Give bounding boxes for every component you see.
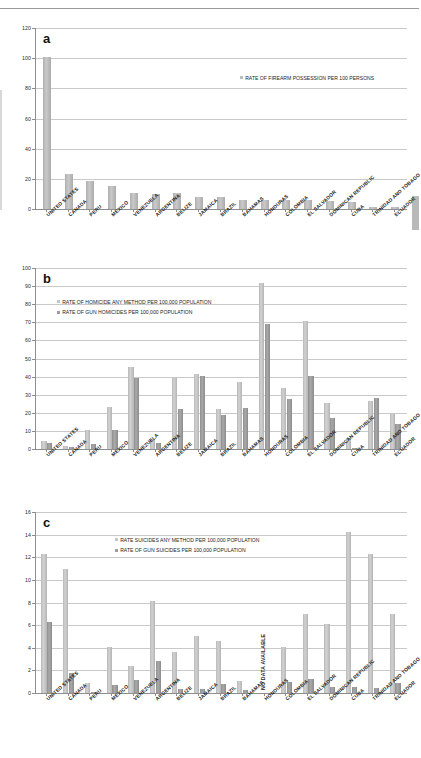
- bar-group: [36, 512, 58, 693]
- bar: [265, 324, 270, 449]
- bar-group: [188, 28, 210, 209]
- bar: [134, 378, 139, 449]
- y-axis-tick-label: 12: [25, 554, 31, 560]
- bar: [346, 532, 351, 693]
- bar-group: [384, 28, 406, 209]
- bar: [259, 283, 264, 449]
- bar: [368, 401, 373, 450]
- y-axis-tick-label: 0: [28, 690, 31, 696]
- bar: [108, 186, 116, 209]
- bar-group: [80, 28, 102, 209]
- y-axis-tick-label: 8: [28, 600, 31, 606]
- bar: [63, 446, 68, 449]
- plot-area-b: b 0102030405060708090100 RATE OF HOMICID…: [35, 268, 407, 450]
- bar-group: [319, 28, 341, 209]
- bar-group: [80, 512, 102, 693]
- bar-group: [254, 28, 276, 209]
- bar: [243, 408, 248, 449]
- y-axis-tick-label: 14: [25, 532, 31, 538]
- chart-panel-c: c 0246810121416 RATE SUICIDES ANY METHOD…: [0, 504, 419, 754]
- bar: [86, 181, 94, 209]
- bar-group: [58, 512, 80, 693]
- bar-group: [123, 512, 145, 693]
- y-axis-tick-label: 0: [28, 206, 31, 212]
- bar: [107, 407, 112, 449]
- bar: [237, 382, 242, 449]
- plot-area-c: c 0246810121416 RATE SUICIDES ANY METHOD…: [35, 512, 407, 694]
- bar-group: [58, 28, 80, 209]
- bar: [130, 193, 138, 209]
- bar-group: [341, 28, 363, 209]
- y-axis-tick-label: 90: [25, 283, 31, 289]
- bar-group: [297, 512, 319, 693]
- chart-panel-a: a 020406080100120 RATE OF FIREARM POSSES…: [0, 18, 419, 260]
- bar-group: [145, 512, 167, 693]
- bar-group: [232, 28, 254, 209]
- y-axis-tick-label: 40: [25, 374, 31, 380]
- y-axis-tick-label: 50: [25, 356, 31, 362]
- bars-c: [36, 512, 407, 693]
- bar-group: [101, 268, 123, 449]
- page-top-rule: [0, 8, 419, 9]
- bar-group: [58, 268, 80, 449]
- bar-group: [275, 512, 297, 693]
- bar-group: [188, 512, 210, 693]
- y-axis-tick-label: 10: [25, 428, 31, 434]
- bar: [194, 374, 199, 449]
- y-axis-tick-label: 6: [28, 622, 31, 628]
- bar: [200, 376, 205, 449]
- bar: [368, 554, 373, 693]
- bar: [128, 367, 133, 449]
- y-axis-tick-label: 16: [25, 509, 31, 515]
- bar-group: [145, 28, 167, 209]
- bar-group: [232, 512, 254, 693]
- bar-group: [210, 28, 232, 209]
- bars-a: [36, 28, 407, 209]
- y-axis-tick-label: 4: [28, 645, 31, 651]
- bar-group: [275, 268, 297, 449]
- y-axis-tick-label: 20: [25, 176, 31, 182]
- plot-area-a: a 020406080100120 RATE OF FIREARM POSSES…: [35, 28, 407, 210]
- bar: [194, 636, 199, 693]
- bar: [237, 681, 242, 693]
- bar-group: [80, 268, 102, 449]
- chart-panel-b: b 0102030405060708090100 RATE OF HOMICID…: [0, 260, 419, 504]
- bar-group: [297, 28, 319, 209]
- bar: [107, 647, 112, 693]
- y-axis-tick-label: 100: [22, 55, 31, 61]
- bar: [41, 554, 46, 693]
- bar-group: [167, 28, 189, 209]
- bar-group: [275, 28, 297, 209]
- bar: [43, 57, 51, 209]
- bar-group: [232, 268, 254, 449]
- bar-group: [36, 268, 58, 449]
- y-axis-tick-label: 80: [25, 301, 31, 307]
- y-axis-tick-label: 60: [25, 337, 31, 343]
- bar: [47, 622, 52, 693]
- bar: [287, 399, 292, 449]
- bar-group: [319, 512, 341, 693]
- y-axis-tick-label: 80: [25, 85, 31, 91]
- bars-b: [36, 268, 407, 449]
- bar-group: [167, 268, 189, 449]
- bar: [221, 415, 226, 449]
- y-axis-tick-label: 30: [25, 392, 31, 398]
- bar-group: [101, 512, 123, 693]
- y-axis-tick-label: 0: [28, 446, 31, 452]
- bar-group: [123, 28, 145, 209]
- bar-group: [188, 268, 210, 449]
- bar: [63, 569, 68, 693]
- bar-group: [123, 268, 145, 449]
- y-axis-tick-label: 120: [22, 25, 31, 31]
- y-axis-tick-label: 20: [25, 410, 31, 416]
- bar-group: [36, 28, 58, 209]
- bar-group: [167, 512, 189, 693]
- bar-group: [210, 512, 232, 693]
- bar-group: [297, 268, 319, 449]
- bar: [178, 409, 183, 449]
- bar-group: [145, 268, 167, 449]
- bar-group: [341, 268, 363, 449]
- bar-group: [341, 512, 363, 693]
- bar: [374, 398, 379, 449]
- bar-group: [384, 268, 406, 449]
